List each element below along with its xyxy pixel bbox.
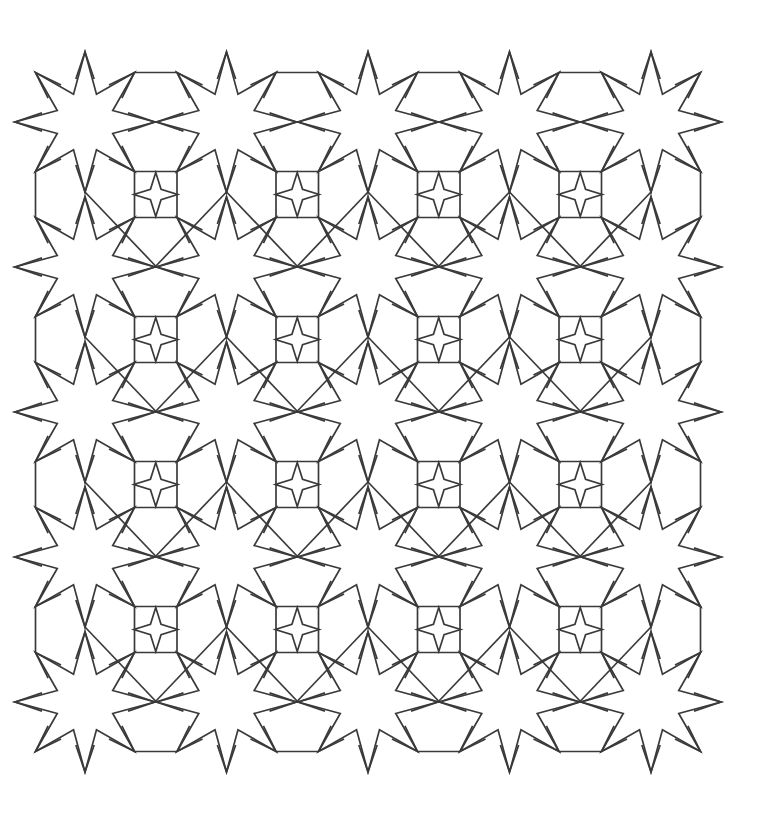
geometric-pattern-svg <box>0 0 757 833</box>
background-rect <box>0 0 757 833</box>
pattern-canvas <box>0 0 757 833</box>
